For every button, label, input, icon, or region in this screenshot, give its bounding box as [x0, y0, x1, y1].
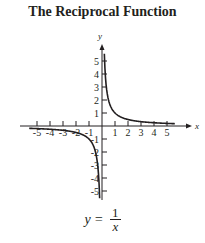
- y-axis-arrow-icon: [100, 44, 105, 50]
- x-tick-label: 5: [165, 127, 170, 138]
- curve-negative-branch: [29, 128, 99, 198]
- x-tick-label: -3: [59, 127, 67, 138]
- y-tick-label: 3: [94, 82, 99, 93]
- y-tick-label: 4: [94, 69, 99, 80]
- formula-lhs: y =: [84, 212, 103, 227]
- x-tick-label: 2: [126, 127, 131, 138]
- y-tick-label: 5: [94, 56, 99, 67]
- y-tick-label: 2: [94, 95, 99, 106]
- y-axis-label: y: [97, 31, 102, 41]
- x-axis-arrow-icon: [186, 124, 192, 129]
- formula-fraction: 1 x: [110, 206, 121, 234]
- curve-positive-branch: [104, 54, 174, 124]
- x-tick-label: 3: [139, 127, 144, 138]
- x-tick-label: 4: [152, 127, 157, 138]
- x-axis-label: x: [194, 121, 199, 131]
- formula-denominator: x: [110, 220, 121, 234]
- y-tick-label: 1: [94, 108, 99, 119]
- formula-numerator: 1: [110, 206, 121, 220]
- x-tick-label: 1: [113, 127, 118, 138]
- y-tick-label: -5: [91, 186, 99, 197]
- function-formula: y = 1 x: [0, 206, 205, 234]
- axes: xy: [20, 31, 199, 200]
